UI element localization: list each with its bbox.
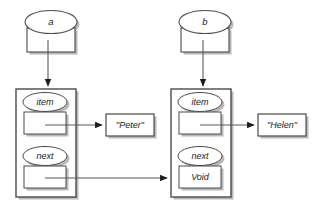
node-1-next-slot[interactable]: [24, 166, 66, 188]
value-helen-group: "Helen": [258, 114, 309, 139]
variable-a-group: a: [25, 11, 80, 55]
variable-a-label: a: [48, 16, 53, 27]
node-2-next-label: next: [191, 151, 209, 161]
node-2-item-slot[interactable]: [179, 112, 221, 134]
value-peter-group: "Peter": [106, 114, 157, 139]
diagram-canvas: a b item: [0, 0, 318, 218]
node-1-item-label: item: [36, 97, 54, 107]
value-helen-label: "Helen": [267, 120, 298, 130]
value-peter-label: "Peter": [116, 120, 145, 130]
node-1-group: item next: [16, 89, 79, 200]
node-2-next-slot-value: Void: [191, 172, 210, 182]
node-1-next-label: next: [36, 151, 54, 161]
node-1-item-slot[interactable]: [24, 112, 66, 134]
variable-b-group: b: [179, 11, 234, 55]
node-2-item-label: item: [191, 97, 209, 107]
linked-list-diagram: a b item: [0, 0, 318, 218]
node-2-group: item Void next: [171, 89, 234, 200]
variable-b-label: b: [202, 16, 207, 27]
